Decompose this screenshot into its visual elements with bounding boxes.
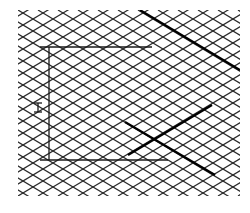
grid-line [218,10,250,213]
drawn-shape-lines [125,10,240,175]
grid-line [0,10,110,213]
isometric-grid-diagram [0,0,250,213]
shape-edge-line [140,10,240,70]
grid-line [0,0,10,196]
grid-line [0,10,10,213]
diagram-svg [0,0,250,213]
grid-line [78,10,250,213]
grid-line [18,10,250,213]
grid-line [218,0,250,196]
grid-line [138,10,250,213]
